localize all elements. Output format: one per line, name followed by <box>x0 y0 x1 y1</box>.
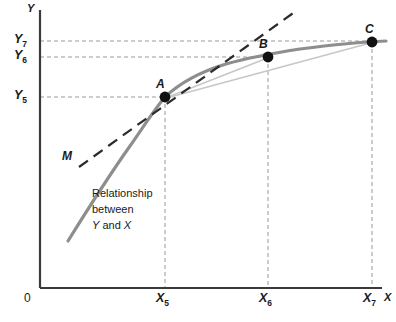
point-label-c: C <box>365 23 374 36</box>
caption-y-symbol: Y <box>92 219 99 231</box>
point-label-b: B <box>259 38 268 51</box>
y-tick-sub-y6: 6 <box>22 55 27 65</box>
curve-caption-line-1: Relationship <box>92 186 153 202</box>
chord-a-to-c <box>163 42 374 99</box>
x-tick-sub-x5: 5 <box>164 298 169 308</box>
point-marker-c[interactable] <box>367 37 378 48</box>
axes <box>40 10 382 288</box>
chart-figure: Y X 0 Y7 Y6 Y5 X5 X6 X7 A B C M Relation… <box>0 0 396 322</box>
point-marker-b[interactable] <box>263 52 274 63</box>
y-axis-label: Y <box>27 2 34 14</box>
chart-plot-area <box>0 0 396 322</box>
chord-a-to-b <box>163 57 270 99</box>
caption-and-word: and <box>102 219 120 231</box>
point-marker-a[interactable] <box>160 92 171 103</box>
horizontal-guide-lines <box>40 41 372 97</box>
x-tick-sub-x6: 6 <box>267 298 272 308</box>
curve-caption-line-3: Y and X <box>92 218 153 234</box>
x-tick-label-x5: X5 <box>156 292 169 308</box>
y-tick-label-y7: Y7 <box>14 33 27 49</box>
x-tick-sub-x7: 7 <box>371 298 376 308</box>
curve-caption: Relationship between Y and X <box>92 186 153 234</box>
y-tick-label-y6: Y6 <box>14 49 27 65</box>
origin-label: 0 <box>24 292 31 305</box>
x-tick-label-x6: X6 <box>259 292 272 308</box>
tangent-label-m: M <box>62 150 72 163</box>
y-tick-sub-y5: 5 <box>22 95 27 105</box>
point-label-a: A <box>156 78 165 91</box>
caption-x-symbol: X <box>124 219 131 231</box>
curve-caption-line-2: between <box>92 202 153 218</box>
y-tick-label-y5: Y5 <box>14 89 27 105</box>
vertical-guide-lines <box>165 42 372 288</box>
y-tick-sub-y7: 7 <box>22 39 27 49</box>
x-axis-label: X <box>384 291 391 303</box>
tangent-line-m <box>79 11 296 167</box>
x-tick-label-x7: X7 <box>363 292 376 308</box>
secant-lines <box>163 42 374 99</box>
